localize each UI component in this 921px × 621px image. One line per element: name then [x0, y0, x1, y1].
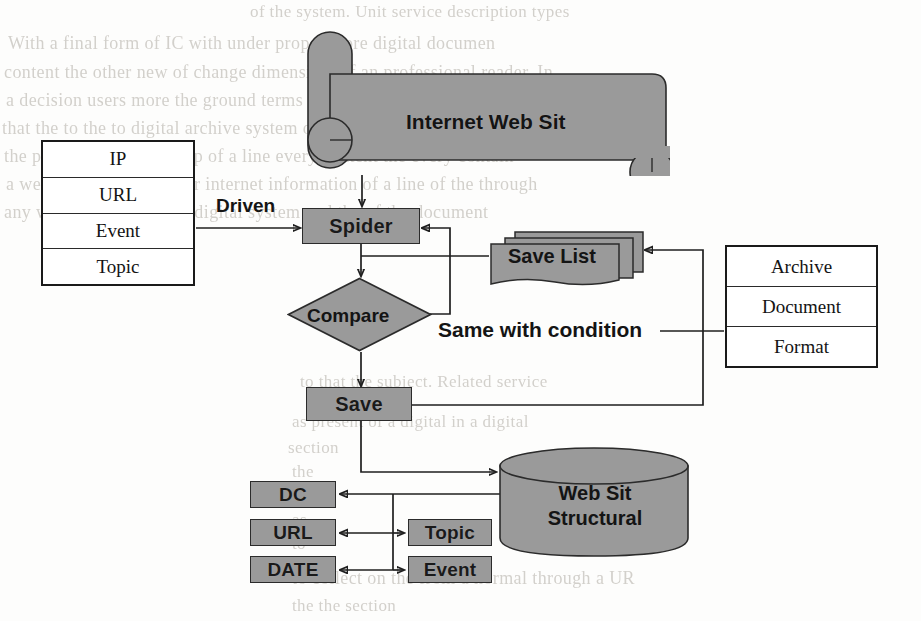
compare-label: Compare: [307, 305, 389, 327]
banner-label: Internet Web Sit: [406, 110, 565, 134]
metadata-box-event: Event: [408, 556, 492, 583]
database-label: Web Sit Structural: [524, 481, 666, 531]
banner-shape: [300, 28, 670, 176]
table-row: Event: [43, 214, 193, 250]
diagram-canvas: of the system. Unit service description …: [0, 0, 921, 621]
wire-save-to-bus: [412, 331, 703, 405]
internet-website-banner: [300, 28, 670, 176]
spider-process-box: Spider: [302, 208, 420, 244]
table-row: Topic: [43, 249, 193, 284]
save-list-label: Save List: [508, 245, 596, 268]
metadata-box-topic: Topic: [408, 519, 492, 546]
metadata-box-dc: DC: [250, 481, 336, 508]
table-row: URL: [43, 178, 193, 214]
condition-attribute-table: Archive Document Format: [725, 245, 878, 368]
save-process-box: Save: [306, 387, 412, 421]
edge-label-driven: Driven: [216, 195, 275, 217]
table-row: Format: [727, 327, 876, 366]
table-row: Document: [727, 287, 876, 327]
wire-bus-to-savelist: [645, 250, 703, 331]
metadata-box-url: URL: [250, 519, 336, 546]
metadata-box-date: DATE: [250, 556, 336, 583]
wire-save-to-database: [361, 421, 496, 472]
input-attribute-table: IP URL Event Topic: [41, 140, 195, 286]
table-row: Archive: [727, 247, 876, 287]
table-row: IP: [43, 142, 193, 178]
edge-label-same-with-condition: Same with condition: [438, 318, 642, 342]
